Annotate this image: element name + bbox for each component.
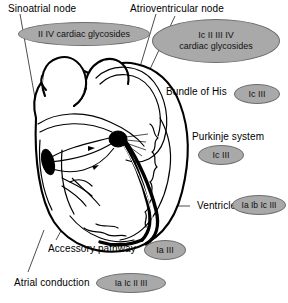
badge-av-line1: Ic II III IV — [198, 30, 234, 41]
label-atrial-conduction: Atrial conduction — [14, 277, 90, 289]
label-bundle-of-his: Bundle of His — [166, 86, 227, 98]
heading-sinoatrial-node: Sinoatrial node — [8, 3, 76, 15]
badge-sinoatrial-drugs[interactable]: II IV cardiac glycosides — [18, 22, 150, 46]
badge-atrial-conduction-drugs[interactable]: Ia Ic II III — [96, 273, 166, 293]
atrioventricular-node-marker — [109, 131, 127, 147]
badge-ventricle-drugs[interactable]: Ia Ib Ic III — [232, 195, 286, 215]
cardiac-conduction-diagram: Sinoatrial node Atrioventricular node II… — [0, 0, 288, 303]
badge-av-line2: cardiac glycosides — [179, 41, 253, 52]
label-accessory-pathway: Accessory pathway — [48, 243, 136, 255]
badge-atrioventricular-drugs[interactable]: Ic II III IV cardiac glycosides — [152, 19, 280, 63]
label-purkinje-system: Purkinje system — [192, 131, 264, 143]
badge-purkinje-drugs[interactable]: Ic III — [198, 145, 244, 165]
leader-line-atrial-conduction — [28, 230, 44, 272]
badge-bundle-of-his-drugs[interactable]: Ic III — [234, 84, 280, 104]
pulmonary-trunk — [86, 59, 129, 84]
heading-atrioventricular-node: Atrioventricular node — [130, 3, 224, 15]
label-ventricle: Ventricle — [197, 200, 236, 212]
badge-accessory-pathway-drugs[interactable]: Ia III — [144, 240, 186, 260]
